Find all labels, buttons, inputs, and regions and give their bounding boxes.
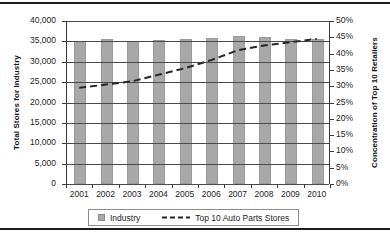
x-tick-label: 2006 xyxy=(198,190,224,199)
y-tick-label: 20,000 xyxy=(30,98,56,107)
y2-tickmark xyxy=(330,168,334,169)
gridline xyxy=(67,62,329,63)
x-tick-label: 2009 xyxy=(277,190,303,199)
y2-tickmark xyxy=(330,54,334,55)
x-tickmark xyxy=(172,184,173,188)
x-tickmark xyxy=(224,184,225,188)
y-tick-label: 30,000 xyxy=(30,57,56,66)
y-tick-label: 0 xyxy=(51,179,56,188)
y2-tick-label: 40% xyxy=(336,49,353,58)
bar xyxy=(285,39,297,184)
y2-tickmark xyxy=(330,151,334,152)
y2-tickmark xyxy=(330,119,334,120)
bar xyxy=(233,36,245,184)
y2-tick-label: 50% xyxy=(336,16,353,25)
x-tick-label: 2005 xyxy=(172,190,198,199)
page-rule-top xyxy=(0,2,390,4)
x-tickmark xyxy=(92,184,93,188)
gridline xyxy=(67,82,329,83)
y2-tick-label: 15% xyxy=(336,130,353,139)
x-tick-label: 2003 xyxy=(119,190,145,199)
x-tickmark xyxy=(119,184,120,188)
bar xyxy=(206,38,218,184)
y2-tickmark xyxy=(330,21,334,22)
right-axis-title: Concentration of Top 10 Retailers xyxy=(370,23,379,183)
legend-label-top10: Top 10 Auto Parts Stores xyxy=(195,213,289,223)
y-tick-label: 10,000 xyxy=(30,138,56,147)
y-tick-label: 5,000 xyxy=(35,159,56,168)
x-tick-label: 2010 xyxy=(304,190,330,199)
x-tickmark xyxy=(304,184,305,188)
y-tick-label: 25,000 xyxy=(30,77,56,86)
y-tickmark xyxy=(62,103,66,104)
y2-tick-label: 35% xyxy=(336,65,353,74)
x-tickmark xyxy=(145,184,146,188)
bar xyxy=(180,39,192,184)
chart-legend: Industry Top 10 Auto Parts Stores xyxy=(88,209,299,226)
y-tick-label: 35,000 xyxy=(30,36,56,45)
y2-tickmark xyxy=(330,37,334,38)
legend-label-industry: Industry xyxy=(110,213,140,223)
bar xyxy=(74,41,86,184)
y2-tickmark xyxy=(330,86,334,87)
x-tickmark xyxy=(330,184,331,188)
x-tick-label: 2007 xyxy=(224,190,250,199)
y-tickmark xyxy=(62,21,66,22)
left-axis-title: Total Stores for Industry xyxy=(12,23,21,183)
bar-swatch-icon xyxy=(98,214,105,221)
y2-tickmark xyxy=(330,70,334,71)
dashed-line-icon xyxy=(162,214,190,221)
x-tickmark xyxy=(277,184,278,188)
y2-tick-label: 30% xyxy=(336,81,353,90)
y2-tickmark xyxy=(330,135,334,136)
y2-tick-label: 25% xyxy=(336,98,353,107)
x-tick-label: 2002 xyxy=(92,190,118,199)
bar xyxy=(259,37,271,184)
gridline xyxy=(67,41,329,42)
x-tick-label: 2008 xyxy=(251,190,277,199)
x-tickmark xyxy=(251,184,252,188)
y2-tick-label: 45% xyxy=(336,32,353,41)
gridline xyxy=(67,143,329,144)
y-tickmark xyxy=(62,62,66,63)
x-axis-labels: 2001200220032004200520062007200820092010 xyxy=(66,188,330,202)
gridline xyxy=(67,164,329,165)
plot-area xyxy=(66,21,330,184)
y2-tick-label: 10% xyxy=(336,146,353,155)
y2-tickmark xyxy=(330,103,334,104)
y-tickmark xyxy=(62,123,66,124)
page-rule-bottom xyxy=(0,228,390,230)
chart-figure: Total Stores for Industry Concentration … xyxy=(0,6,390,226)
y-tickmark xyxy=(62,82,66,83)
x-tickmark xyxy=(66,184,67,188)
x-tickmark xyxy=(198,184,199,188)
legend-item-industry: Industry xyxy=(98,213,140,223)
y-tick-label: 40,000 xyxy=(30,16,56,25)
gridline xyxy=(67,123,329,124)
y2-tick-label: 0% xyxy=(336,179,348,188)
gridline xyxy=(67,103,329,104)
x-tick-label: 2001 xyxy=(66,190,92,199)
x-tick-label: 2004 xyxy=(145,190,171,199)
y2-tick-label: 20% xyxy=(336,114,353,123)
y2-tick-label: 5% xyxy=(336,163,348,172)
y-tick-label: 15,000 xyxy=(30,118,56,127)
y-tickmark xyxy=(62,41,66,42)
y-tickmark xyxy=(62,143,66,144)
gridline xyxy=(67,21,329,22)
legend-item-top10: Top 10 Auto Parts Stores xyxy=(162,213,289,223)
y-tickmark xyxy=(62,164,66,165)
